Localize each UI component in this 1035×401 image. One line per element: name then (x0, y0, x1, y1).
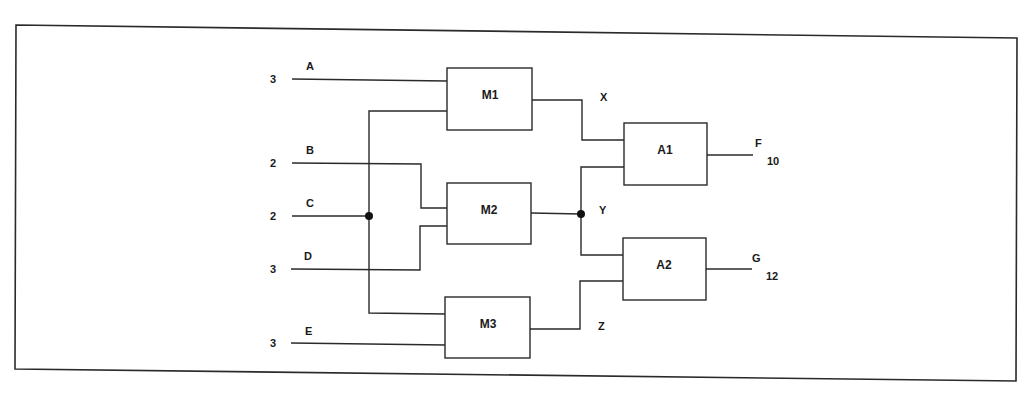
block-m1-label: M1 (482, 88, 499, 102)
wire-x (532, 100, 624, 140)
intermediate-wires (530, 100, 624, 329)
output-g-label: G (752, 252, 761, 264)
input-b-label: B (306, 144, 314, 156)
block-m3: M3 (445, 297, 530, 358)
wire-y-a2 (581, 214, 623, 255)
input-e-label: E (305, 325, 312, 337)
block-a2: A2 (623, 238, 706, 300)
output-f-value: 10 (767, 155, 779, 167)
junction-c-dot (365, 212, 373, 220)
wire-c-bus (369, 111, 447, 314)
block-m2-label: M2 (481, 203, 498, 217)
input-a-label: A (306, 60, 314, 72)
intermediate-z-label: Z (598, 320, 605, 332)
output-f-label: F (755, 137, 762, 149)
block-a2-label: A2 (656, 258, 672, 272)
input-d-weight: 3 (270, 263, 276, 275)
intermediate-y-label: Y (599, 204, 607, 216)
block-m2: M2 (447, 183, 531, 244)
input-b-weight: 2 (270, 157, 276, 169)
wire-m2-y (531, 213, 581, 214)
input-c-weight: 2 (270, 210, 276, 222)
wire-a-m1 (292, 79, 447, 81)
input-c-label: C (306, 197, 314, 209)
block-m3-label: M3 (480, 317, 497, 331)
block-a1: A1 (624, 123, 707, 185)
input-e-weight: 3 (270, 337, 276, 349)
wire-z (530, 281, 623, 329)
wire-e-m3 (291, 343, 446, 345)
block-m1: M1 (447, 68, 532, 130)
block-a1-label: A1 (657, 143, 673, 157)
circuit-diagram: 3 2 2 3 3 A B C D E M1 M2 M3 (0, 0, 1035, 401)
output-g-value: 12 (766, 270, 778, 282)
junction-y-dot (577, 210, 585, 218)
input-d-label: D (304, 250, 312, 262)
intermediate-x-label: X (600, 91, 608, 103)
input-a-weight: 3 (270, 73, 276, 85)
